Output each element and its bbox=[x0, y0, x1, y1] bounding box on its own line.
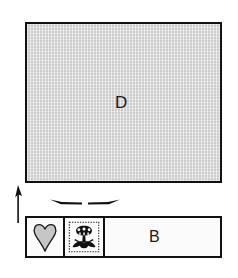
tile-heart bbox=[27, 218, 65, 256]
tile-rosette bbox=[65, 218, 105, 256]
arrow-up-glyph bbox=[12, 185, 26, 223]
flower-rosette-icon bbox=[65, 218, 103, 256]
panel-d-label: D bbox=[27, 24, 220, 181]
tile-plain-b: B bbox=[105, 218, 220, 256]
technical-figure: D bbox=[0, 0, 238, 278]
arrow-up-icon bbox=[12, 185, 26, 223]
band-b: B bbox=[25, 216, 222, 258]
band-b-label: B bbox=[149, 228, 176, 246]
heart-icon bbox=[27, 218, 63, 256]
arrows-horizontal-glyph bbox=[50, 197, 120, 211]
arrows-horizontal-icon bbox=[50, 197, 120, 211]
panel-d: D bbox=[25, 22, 222, 183]
